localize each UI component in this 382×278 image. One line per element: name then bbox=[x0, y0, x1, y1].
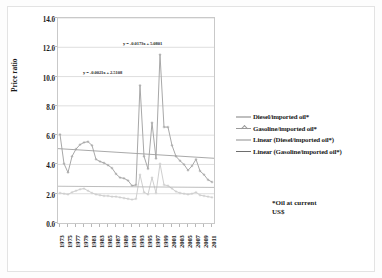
x-tick-label: 1975 bbox=[66, 235, 73, 248]
data-point-marker bbox=[155, 157, 158, 160]
trendline-linear--diesel-imported-oil-- bbox=[58, 149, 214, 159]
footnote-line-1: *Oil at current bbox=[272, 199, 352, 208]
data-point-marker bbox=[75, 189, 78, 192]
legend-item[interactable]: Diesel/imported oil* bbox=[236, 111, 376, 123]
x-tick-mark bbox=[203, 224, 204, 227]
data-point-marker bbox=[139, 173, 142, 176]
data-point-marker bbox=[107, 195, 110, 198]
data-point-marker bbox=[151, 121, 154, 124]
x-tick-mark bbox=[179, 224, 180, 227]
data-point-marker bbox=[143, 155, 146, 158]
x-tick-label: 1977 bbox=[74, 235, 81, 248]
chart-canvas bbox=[58, 18, 214, 223]
legend-item[interactable]: Gasoline/imported oil* bbox=[236, 123, 376, 135]
x-tick-label: 1985 bbox=[106, 235, 113, 248]
data-point-marker bbox=[207, 195, 210, 198]
x-tick-label: 2007 bbox=[194, 235, 201, 248]
x-tick-mark bbox=[123, 224, 124, 227]
y-tick-label: 4.0 bbox=[46, 163, 55, 170]
x-tick-label: 1993 bbox=[138, 235, 145, 248]
data-point-marker bbox=[203, 195, 206, 198]
y-tick-mark bbox=[53, 76, 57, 77]
x-tick-label: 1995 bbox=[146, 235, 153, 248]
data-point-marker bbox=[151, 176, 154, 179]
diesel-trendline-equation: y = -0.0173x + 5.0801 bbox=[123, 41, 162, 46]
data-point-marker bbox=[171, 144, 174, 147]
data-point-marker bbox=[163, 184, 166, 187]
y-tick-label: 10.0 bbox=[43, 76, 55, 83]
data-point-marker bbox=[183, 192, 186, 195]
legend-label: Linear (Gasoline/imported oil*) bbox=[253, 148, 342, 155]
figure-container: Price ratio 0.02.04.06.08.010.012.014.0 … bbox=[0, 0, 382, 278]
data-point-marker bbox=[135, 198, 138, 201]
x-tick-mark bbox=[67, 224, 68, 227]
y-tick-mark bbox=[53, 163, 57, 164]
data-point-marker bbox=[191, 192, 194, 195]
y-tick-label: 8.0 bbox=[46, 105, 55, 112]
y-tick-mark bbox=[53, 46, 57, 47]
y-tick-mark bbox=[53, 134, 57, 135]
y-tick-label: 0.0 bbox=[46, 222, 55, 229]
y-tick-mark bbox=[53, 193, 57, 194]
data-point-marker bbox=[115, 195, 118, 198]
x-tick-mark bbox=[163, 224, 164, 227]
legend-item[interactable]: Linear (Gasoline/imported oil*) bbox=[236, 146, 376, 158]
x-tick-mark bbox=[147, 224, 148, 227]
data-point-marker bbox=[79, 188, 82, 191]
data-point-marker bbox=[103, 195, 106, 198]
x-tick-label: 1999 bbox=[162, 235, 169, 248]
legend-label: Diesel/imported oil* bbox=[253, 113, 309, 120]
x-tick-mark bbox=[99, 224, 100, 227]
footnote: *Oil at current US$ bbox=[272, 199, 352, 218]
legend-item[interactable]: Linear (Diesel/imported oil*) bbox=[236, 134, 376, 146]
x-tick-label: 1981 bbox=[90, 235, 97, 248]
y-axis-title: Price ratio bbox=[10, 59, 19, 92]
x-tick-label: 1991 bbox=[130, 235, 137, 248]
x-tick-mark bbox=[195, 224, 196, 227]
data-point-marker bbox=[63, 192, 66, 195]
y-axis-tick-labels: 0.02.04.06.08.010.012.014.0 bbox=[22, 10, 55, 231]
x-tick-mark bbox=[91, 224, 92, 227]
x-tick-label: 2003 bbox=[178, 235, 185, 248]
x-tick-mark bbox=[139, 224, 140, 227]
y-tick-label: 14.0 bbox=[43, 17, 55, 24]
legend-label: Linear (Diesel/imported oil*) bbox=[253, 136, 334, 143]
y-tick-mark bbox=[53, 17, 57, 18]
y-tick-mark bbox=[53, 222, 57, 223]
data-point-marker bbox=[131, 198, 134, 201]
x-tick-label: 2009 bbox=[202, 235, 209, 248]
chart-legend: Diesel/imported oil*Gasoline/imported oi… bbox=[236, 111, 376, 157]
x-tick-mark bbox=[115, 224, 116, 227]
x-tick-label: 2011 bbox=[210, 236, 217, 248]
x-tick-label: 1987 bbox=[114, 235, 121, 248]
x-axis-tick-labels: 1973197519771979198119831985198719891991… bbox=[57, 226, 215, 266]
data-point-marker bbox=[147, 168, 150, 171]
data-point-marker bbox=[123, 197, 126, 200]
data-point-marker bbox=[99, 194, 102, 197]
legend-swatch-icon bbox=[236, 112, 251, 121]
data-point-marker bbox=[139, 84, 142, 87]
y-tick-mark bbox=[53, 105, 57, 106]
trendline-linear--gasoline-imported-oil-- bbox=[58, 186, 214, 187]
data-point-marker bbox=[211, 196, 214, 199]
x-tick-label: 1989 bbox=[122, 235, 129, 248]
x-tick-mark bbox=[187, 224, 188, 227]
x-tick-label: 1997 bbox=[154, 235, 161, 248]
data-point-marker bbox=[167, 126, 170, 129]
legend-swatch-icon bbox=[236, 135, 251, 144]
x-tick-mark bbox=[75, 224, 76, 227]
x-tick-mark bbox=[131, 224, 132, 227]
y-tick-label: 6.0 bbox=[46, 134, 55, 141]
footnote-line-2: US$ bbox=[272, 208, 352, 217]
y-tick-label: 2.0 bbox=[46, 193, 55, 200]
plus-marker-icon bbox=[241, 125, 248, 132]
data-point-marker bbox=[159, 53, 162, 56]
y-tick-label: 12.0 bbox=[43, 46, 55, 53]
legend-label: Gasoline/imported oil* bbox=[253, 125, 317, 132]
x-tick-label: 2005 bbox=[186, 235, 193, 248]
data-point-marker bbox=[127, 198, 130, 201]
x-tick-mark bbox=[155, 224, 156, 227]
data-point-marker bbox=[111, 195, 114, 198]
plot-area bbox=[57, 17, 215, 224]
x-tick-mark bbox=[171, 224, 172, 227]
